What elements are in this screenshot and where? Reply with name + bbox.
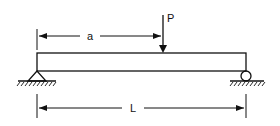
roller-support-icon [230,71,265,86]
pin-support-icon [17,71,56,86]
dimension-L-label: L [130,102,136,114]
dimension-a [37,29,161,50]
dimension-L [37,94,246,118]
dimension-a-label: a [87,30,94,42]
beam-diagram: P a L [0,0,280,126]
load-arrow-icon [159,15,167,53]
load-label: P [167,12,174,24]
beam [37,53,246,71]
